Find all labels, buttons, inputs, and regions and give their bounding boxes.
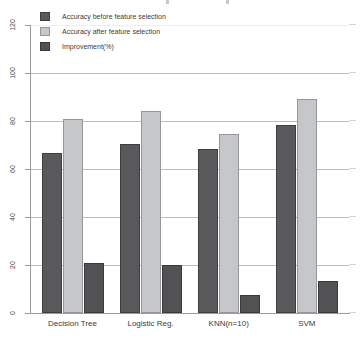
bar: [297, 99, 317, 313]
bar: [198, 149, 218, 313]
y-tick-label: 100: [8, 58, 18, 88]
y-tick-label: 20: [8, 250, 18, 280]
y-axis-line: [30, 25, 31, 313]
y-axis-right-tick: [349, 72, 356, 73]
legend-label: Accuracy before feature selection: [62, 13, 166, 20]
y-axis-right-tick: [349, 312, 356, 313]
bar: [318, 281, 338, 313]
y-axis-right-tick: [349, 24, 356, 25]
legend-label: Accuracy after feature selection: [62, 28, 160, 35]
cropped-title-remnant: [226, 0, 229, 4]
bar-chart: 020406080100120Decision TreeLogistic Reg…: [0, 0, 360, 342]
bar: [42, 153, 62, 313]
legend-item: Accuracy before feature selection: [40, 9, 166, 24]
legend-swatch: [40, 27, 50, 36]
y-tick-label: 60: [8, 154, 18, 184]
gridline: [30, 73, 349, 74]
bar: [240, 295, 260, 313]
legend-swatch: [40, 42, 50, 51]
y-axis-right-tick: [349, 264, 356, 265]
category-label: Logistic Reg.: [106, 318, 196, 329]
y-tick-label: 40: [8, 202, 18, 232]
cropped-title-remnant: [166, 0, 169, 4]
y-axis-right-tick: [349, 120, 356, 121]
legend-item: Accuracy after feature selection: [40, 24, 166, 39]
y-axis-right-tick: [349, 216, 356, 217]
category-label: SVM: [262, 318, 352, 329]
y-tick-label: 120: [8, 10, 18, 40]
y-tick-label: 0: [8, 298, 18, 328]
bar: [84, 263, 104, 313]
bar: [276, 125, 296, 313]
legend-label: Improvement(%): [62, 43, 114, 50]
legend-swatch: [40, 12, 50, 21]
bar: [63, 119, 83, 313]
x-axis-line: [30, 313, 350, 314]
chart-legend: Accuracy before feature selectionAccurac…: [40, 9, 166, 54]
bar: [120, 144, 140, 313]
bar: [219, 134, 239, 313]
y-tick-label: 80: [8, 106, 18, 136]
y-axis-right-tick: [349, 168, 356, 169]
category-label: KNN(n=10): [184, 318, 274, 329]
category-label: Decision Tree: [28, 318, 118, 329]
legend-item: Improvement(%): [40, 39, 166, 54]
bar: [162, 265, 182, 313]
bar: [141, 111, 161, 313]
